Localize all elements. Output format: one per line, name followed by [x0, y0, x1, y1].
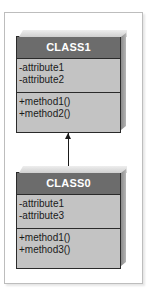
attribute: -attribute1 — [19, 198, 120, 210]
attribute: -attribute1 — [19, 62, 120, 74]
attributes-section: -attribute1 -attribute2 — [17, 59, 120, 93]
arrowhead-icon — [65, 133, 71, 139]
bevel-right — [121, 33, 126, 130]
diagram-canvas: CLASS1 -attribute1 -attribute2 +method1(… — [0, 0, 153, 295]
class-box-class0: CLASS0 -attribute1 -attribute3 +method1(… — [16, 172, 121, 269]
method: +method1() — [19, 232, 120, 244]
attribute: -attribute3 — [19, 210, 120, 222]
attributes-section: -attribute1 -attribute3 — [17, 195, 120, 229]
attribute: -attribute2 — [19, 74, 120, 86]
method: +method1() — [19, 96, 120, 108]
method: +method2() — [19, 108, 120, 120]
bevel-top — [19, 30, 127, 37]
class-name: CLASS1 — [17, 37, 120, 59]
class-box-class1: CLASS1 -attribute1 -attribute2 +method1(… — [16, 36, 121, 133]
method: +method3() — [19, 244, 120, 256]
methods-section: +method1() +method2() — [17, 93, 120, 131]
bevel-top — [19, 166, 127, 173]
bevel-right — [121, 169, 126, 266]
class-name: CLASS0 — [17, 173, 120, 195]
methods-section: +method1() +method3() — [17, 229, 120, 267]
